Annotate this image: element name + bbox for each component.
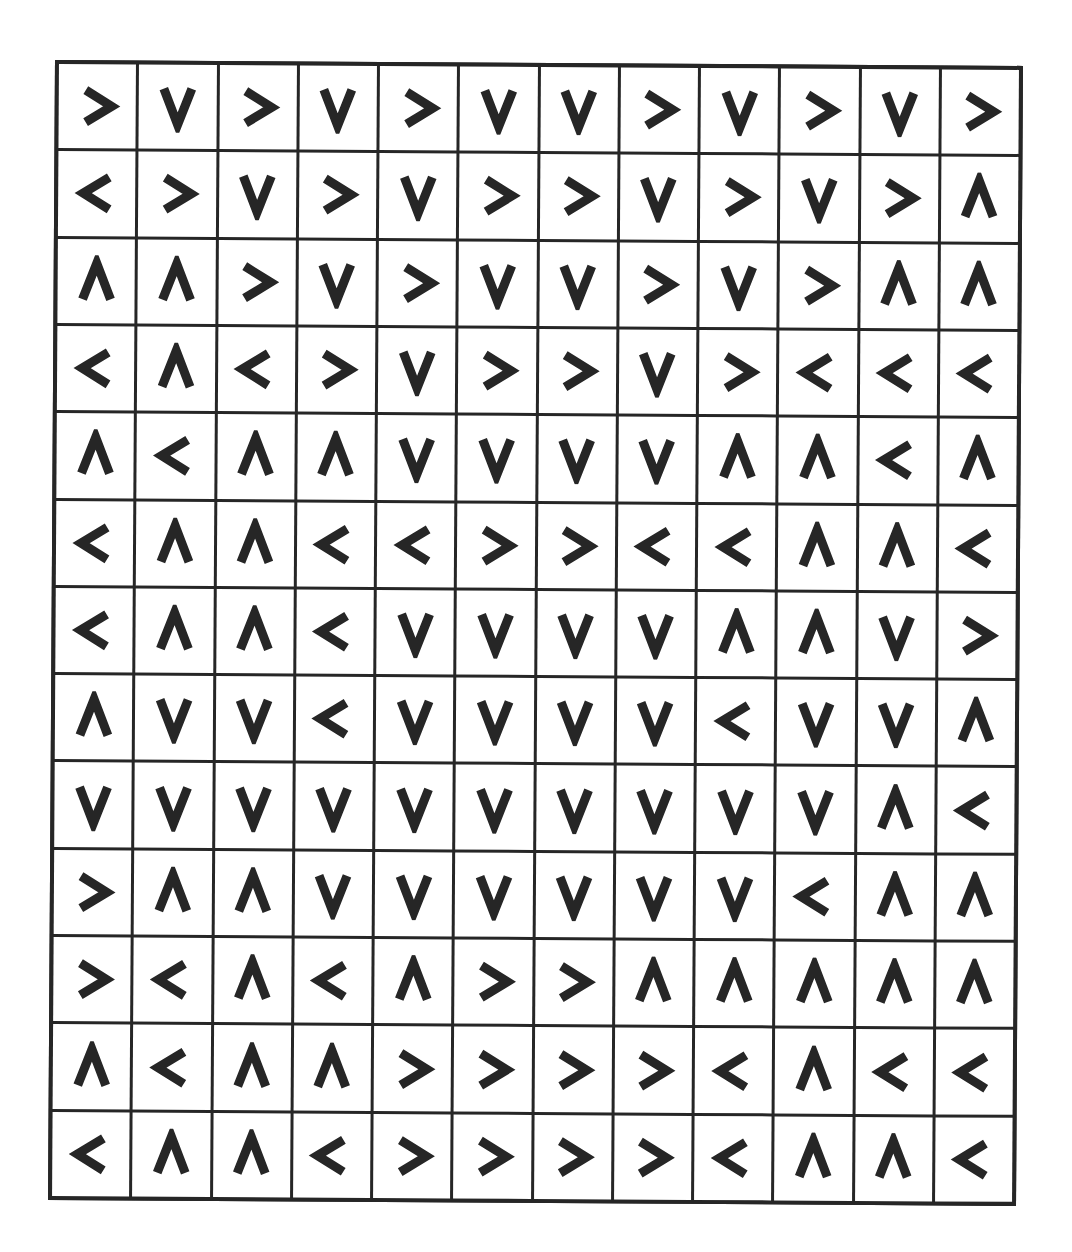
- arrow-up-icon: [868, 958, 920, 1010]
- arrow-left-icon: [630, 520, 682, 572]
- grid-cell: [936, 942, 1014, 1027]
- arrow-up-icon: [387, 955, 439, 1007]
- grid-cell: [861, 69, 939, 154]
- grid-cell: [133, 1025, 211, 1110]
- grid-cell: [54, 762, 132, 847]
- grid-cell: [859, 331, 937, 416]
- grid-cell: [618, 417, 696, 502]
- grid-cell: [620, 155, 698, 240]
- grid-cell: [856, 942, 934, 1027]
- grid-cell: [699, 330, 777, 415]
- grid-cell: [294, 851, 372, 936]
- arrow-up-icon: [869, 871, 921, 923]
- arrow-right-icon: [311, 169, 363, 221]
- grid-cell: [293, 1113, 371, 1198]
- arrow-up-icon: [788, 958, 840, 1010]
- arrow-down-icon: [469, 694, 521, 746]
- arrow-up-icon: [871, 522, 923, 574]
- grid-cell: [775, 1029, 853, 1114]
- grid-cell: [614, 1115, 692, 1200]
- grid-cell: [213, 1113, 291, 1198]
- grid-cell: [377, 415, 455, 500]
- arrow-up-icon: [949, 871, 1001, 923]
- arrow-up-icon: [628, 957, 680, 1009]
- arrow-right-icon: [713, 171, 765, 223]
- grid-cell: [218, 152, 296, 237]
- grid-cell: [216, 502, 294, 587]
- grid-cell: [696, 766, 774, 851]
- arrow-right-icon: [392, 82, 444, 134]
- arrow-up-icon: [67, 691, 119, 743]
- arrow-right-icon: [712, 346, 764, 398]
- grid-cell: [538, 329, 616, 414]
- arrow-up-icon: [228, 605, 280, 657]
- grid-cell: [215, 763, 293, 848]
- grid-cell: [219, 65, 297, 150]
- grid-cell: [52, 1112, 130, 1197]
- grid-cell: [217, 414, 295, 499]
- arrow-up-icon: [949, 959, 1001, 1011]
- grid-cell: [377, 503, 455, 588]
- arrow-left-icon: [230, 343, 282, 395]
- arrow-down-icon: [631, 433, 683, 485]
- grid-cell: [540, 67, 618, 152]
- grid-cell: [615, 941, 693, 1026]
- arrow-right-icon: [633, 84, 685, 136]
- arrow-down-icon: [631, 346, 683, 398]
- arrow-down-icon: [549, 694, 601, 746]
- grid-cell: [459, 241, 537, 326]
- grid-cell: [615, 853, 693, 938]
- arrow-down-icon: [469, 607, 521, 659]
- arrow-down-icon: [548, 782, 600, 834]
- arrow-left-icon: [950, 784, 1002, 836]
- grid-cell: [139, 65, 217, 150]
- arrow-left-icon: [308, 693, 360, 745]
- arrow-right-icon: [793, 85, 845, 137]
- arrow-down-icon: [552, 258, 604, 310]
- grid-cell: [860, 156, 938, 241]
- grid-cell: [58, 64, 136, 149]
- arrow-down-icon: [147, 779, 199, 831]
- arrow-down-icon: [228, 692, 280, 744]
- arrow-left-icon: [70, 342, 122, 394]
- arrow-left-icon: [146, 954, 198, 1006]
- arrow-up-icon: [226, 1042, 278, 1094]
- arrow-up-icon: [791, 434, 843, 486]
- grid-cell: [935, 1030, 1013, 1115]
- grid-cell: [536, 678, 614, 763]
- grid-cell: [860, 244, 938, 329]
- grid-cell: [214, 938, 292, 1023]
- grid-cell: [53, 937, 131, 1022]
- arrow-down-icon: [312, 82, 364, 134]
- grid-cell: [940, 244, 1018, 329]
- arrow-up-icon: [227, 867, 279, 919]
- grid-cell: [620, 67, 698, 152]
- grid-cell: [935, 1117, 1013, 1202]
- arrow-left-icon: [952, 348, 1004, 400]
- arrow-left-icon: [707, 1045, 759, 1097]
- arrow-left-icon: [872, 434, 924, 486]
- grid-cell: [616, 679, 694, 764]
- arrow-right-icon: [470, 519, 522, 571]
- grid-cell: [856, 855, 934, 940]
- grid-cell: [453, 1114, 531, 1199]
- grid-cell: [855, 1117, 933, 1202]
- arrow-right-icon: [547, 956, 599, 1008]
- grid-cell: [56, 501, 134, 586]
- arrow-down-icon: [870, 609, 922, 661]
- arrow-left-icon: [307, 955, 359, 1007]
- arrow-left-icon: [711, 521, 763, 573]
- arrow-left-icon: [309, 518, 361, 570]
- arrow-left-icon: [146, 1041, 198, 1093]
- arrow-right-icon: [231, 256, 283, 308]
- grid-cell: [457, 503, 535, 588]
- grid-cell: [614, 1028, 692, 1113]
- grid-cell: [378, 328, 456, 413]
- arrow-down-icon: [231, 169, 283, 221]
- grid-cell: [534, 1027, 612, 1112]
- grid-cell: [376, 677, 454, 762]
- arrow-left-icon: [948, 1046, 1000, 1098]
- grid-cell: [133, 938, 211, 1023]
- arrow-down-icon: [391, 344, 443, 396]
- arrow-right-icon: [71, 80, 123, 132]
